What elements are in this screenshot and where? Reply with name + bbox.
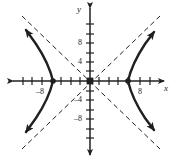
y-tick-label-8: 8 <box>78 39 82 47</box>
vertex-right-marker <box>125 78 131 84</box>
left-branch-upper <box>26 30 53 81</box>
plot-canvas <box>0 0 176 162</box>
center-origin-marker <box>87 78 94 85</box>
x-tick-label-neg8: –8 <box>36 88 44 96</box>
hyperbola-graph-figure: y x –8 8 8 4 –4 –8 <box>0 0 176 162</box>
right-branch-upper <box>128 32 154 81</box>
y-tick-label-neg4: –4 <box>74 96 82 104</box>
y-axis-label: y <box>77 5 81 14</box>
y-tick-label-4: 4 <box>78 58 82 66</box>
y-tick-label-neg8: –8 <box>74 115 82 123</box>
vertex-left-marker <box>50 78 56 84</box>
x-axis-label: x <box>164 84 168 93</box>
x-tick-label-8: 8 <box>138 88 142 96</box>
